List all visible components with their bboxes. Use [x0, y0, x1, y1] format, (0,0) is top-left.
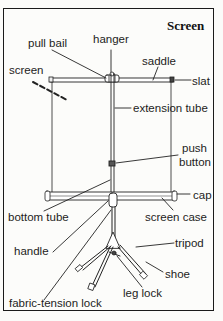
push-button-part	[109, 161, 115, 166]
label-tripod: tripod	[175, 237, 204, 249]
leader-tripod	[136, 243, 174, 247]
label-slat: slat	[192, 75, 210, 87]
label-button: button	[179, 156, 211, 168]
label-pull-bail: pull bail	[28, 37, 67, 49]
label-hanger: hanger	[93, 33, 129, 45]
label-leg-lock: leg lock	[123, 287, 162, 299]
slat-end-left	[49, 77, 53, 82]
label-screen: screen	[9, 64, 44, 76]
label-saddle: saddle	[142, 55, 176, 67]
leader-pull-bail	[52, 50, 106, 78]
label-screen-case: screen case	[145, 211, 207, 223]
cap-left	[45, 191, 50, 201]
label-bottom-tube: bottom tube	[8, 211, 69, 223]
label-fabric-tension-lock: fabric-tension lock	[9, 297, 102, 309]
diagram-title: Screen	[167, 19, 204, 33]
label-handle: handle	[14, 245, 49, 257]
leader-shoe	[146, 262, 163, 272]
label-cap: cap	[193, 189, 212, 201]
screen-indicator-dashes	[33, 82, 67, 100]
label-push: push	[182, 142, 207, 154]
tripod-legs	[75, 245, 147, 291]
label-extension-tube: extension tube	[133, 102, 208, 114]
leader-handle	[53, 201, 108, 252]
label-shoe: shoe	[165, 268, 190, 280]
handle-part	[109, 193, 117, 207]
leader-push-button	[116, 155, 178, 163]
slat-end-right	[170, 77, 174, 82]
cap-right	[172, 191, 177, 201]
